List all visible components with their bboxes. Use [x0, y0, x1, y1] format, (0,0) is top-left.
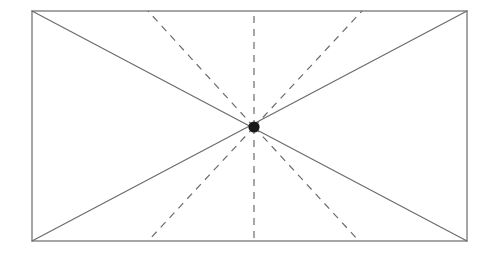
center-point-marker — [248, 121, 259, 132]
dashed-ray-up-left — [148, 11, 254, 127]
dashed-ray-up-right — [254, 11, 362, 127]
dashed-ray-down-right — [254, 127, 359, 241]
geometric-diagram — [0, 0, 498, 262]
dashed-ray-down-left — [148, 127, 254, 241]
figure-canvas — [0, 0, 498, 262]
